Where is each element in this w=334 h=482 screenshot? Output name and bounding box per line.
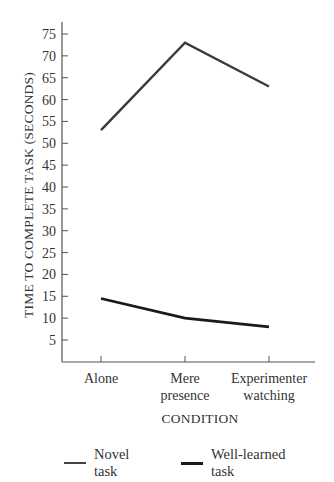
y-tick-label: 50 [42,136,56,151]
line-chart: 51015202530354045505560657075 AloneMerep… [0,0,334,440]
y-tick-label: 70 [42,49,56,64]
legend-swatch-novel-task [64,462,86,464]
series-lines [101,43,269,327]
y-tick-label: 30 [42,224,56,239]
y-tick-label: 60 [42,93,56,108]
legend-item-novel-task: Novel task [64,446,151,480]
y-tick-label: 20 [42,267,56,282]
x-axis-title: CONDITION [162,411,239,426]
y-tick-label: 65 [42,71,56,86]
x-axis: AloneMerepresenceExperimenterwatching [62,356,315,403]
y-tick-label: 45 [42,158,56,173]
x-category-label: Experimenter [231,371,308,386]
y-tick-label: 10 [42,311,56,326]
y-tick-label: 15 [42,289,56,304]
legend-swatch-well-learned-task [181,462,203,465]
y-tick-label: 55 [42,114,56,129]
y-axis-title: TIME TO COMPLETE TASK (SECONDS) [21,72,36,318]
x-category-label: watching [243,388,294,403]
legend-label: Novel task [94,446,151,480]
x-category-label: presence [161,388,210,403]
x-category-label: Mere [170,371,200,386]
legend: Novel task Well-learned task [64,446,334,480]
legend-label: Well-learned task [211,446,304,480]
legend-item-well-learned-task: Well-learned task [181,446,304,480]
x-category-label: Alone [84,371,118,386]
y-tick-label: 40 [42,180,56,195]
y-tick-label: 35 [42,202,56,217]
series-line-novel-task [101,43,269,131]
y-axis: 51015202530354045505560657075 [42,22,68,362]
y-tick-label: 25 [42,246,56,261]
series-line-well-learned-task [101,299,269,327]
y-tick-label: 75 [42,27,56,42]
y-tick-label: 5 [49,333,56,348]
